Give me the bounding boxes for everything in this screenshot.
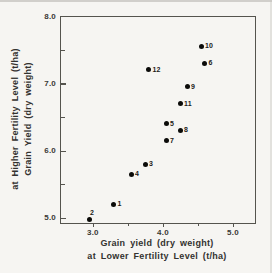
data-point <box>87 217 92 222</box>
x-minor-tick <box>128 223 129 226</box>
y-major-tick <box>61 83 66 84</box>
data-point <box>143 162 148 167</box>
y-tick-label: 7.0 <box>38 79 56 88</box>
y-axis-title-line-inner: Grain Yield (dry weight) <box>22 48 35 190</box>
data-point-label: 1 <box>117 200 121 208</box>
y-minor-tick <box>61 117 65 118</box>
x-axis-title-line-1: Grain yield (dry weight) <box>60 237 254 250</box>
plot-area <box>60 16 256 224</box>
data-point <box>178 128 183 133</box>
scan-edge-top <box>0 0 272 2</box>
x-minor-tick <box>198 223 199 226</box>
x-axis-title: Grain yield (dry weight) at Lower Fertil… <box>60 237 254 263</box>
data-point-label: 4 <box>135 170 139 178</box>
data-point-label: 10 <box>205 42 213 50</box>
data-point-label: 3 <box>149 160 153 168</box>
data-point-label: 12 <box>152 66 160 74</box>
y-axis-title: at Higher Fertility Level (t/ha) Grain Y… <box>9 48 35 190</box>
y-minor-tick <box>61 184 65 185</box>
data-point-label: 2 <box>90 209 94 217</box>
data-point-label: 11 <box>184 100 192 108</box>
data-point <box>199 44 204 49</box>
x-tick-label: 3.0 <box>83 228 103 237</box>
y-tick-label: 5.0 <box>38 213 56 222</box>
data-point-label: 6 <box>208 59 212 67</box>
scan-edge-right <box>270 0 272 273</box>
scatter-plot-figure: at Higher Fertility Level (t/ha) Grain Y… <box>0 0 272 273</box>
x-axis-title-line-2: at Lower Fertility Level (t/ha) <box>60 250 254 263</box>
data-point <box>164 138 169 143</box>
x-major-tick <box>233 223 234 227</box>
data-point-label: 8 <box>184 126 188 134</box>
x-tick-label: 5.0 <box>223 228 243 237</box>
y-major-tick <box>61 151 66 152</box>
y-major-tick <box>61 16 66 17</box>
y-major-tick <box>61 218 66 219</box>
data-point <box>178 101 183 106</box>
y-tick-label: 8.0 <box>38 12 56 21</box>
x-major-tick <box>93 223 94 227</box>
x-major-tick <box>163 223 164 227</box>
x-tick-label: 4.0 <box>153 228 173 237</box>
data-point-label: 9 <box>191 83 195 91</box>
y-minor-tick <box>61 50 65 51</box>
data-point-label: 7 <box>170 137 174 145</box>
y-tick-label: 6.0 <box>38 146 56 155</box>
y-axis-title-line-outer: at Higher Fertility Level (t/ha) <box>9 48 22 190</box>
data-point-label: 5 <box>170 120 174 128</box>
data-point <box>129 172 134 177</box>
